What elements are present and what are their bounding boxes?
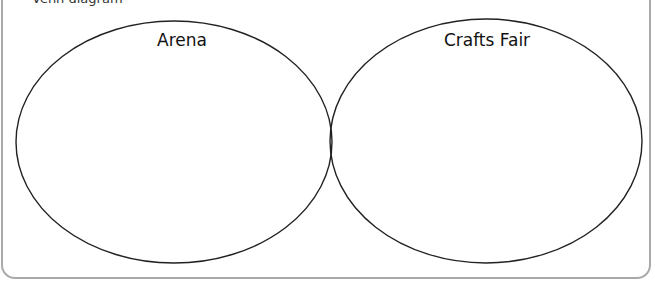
venn-label-crafts-fair: Crafts Fair [444,30,530,50]
venn-circle-crafts-fair[interactable] [330,19,642,263]
venn-circle-arena[interactable] [16,21,332,263]
venn-label-arena: Arena [157,30,207,50]
venn-diagram [0,0,655,283]
